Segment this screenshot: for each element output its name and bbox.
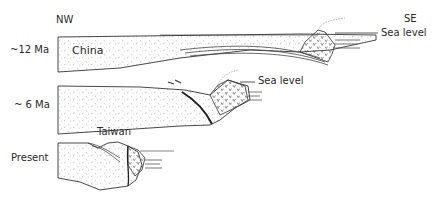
- stage-6ma-section: [58, 70, 262, 134]
- taiwan-label: Taiwan: [97, 127, 131, 137]
- stage-12ma-age-label: ~12 Ma: [10, 45, 49, 55]
- stage-6ma-age-label: ~ 6 Ma: [14, 100, 50, 110]
- stage-present-age-label: Present: [11, 153, 49, 163]
- stage-12ma-section: [58, 18, 378, 72]
- china-label: China: [72, 45, 103, 56]
- sea-level-label-12ma: Sea level: [381, 28, 427, 38]
- stage-present-section: [58, 142, 174, 190]
- sea-level-label-6ma: Sea level: [258, 76, 304, 86]
- compass-se-label: SE: [404, 14, 417, 24]
- compass-nw-label: NW: [56, 15, 73, 25]
- tectonic-evolution-diagram: [0, 0, 439, 198]
